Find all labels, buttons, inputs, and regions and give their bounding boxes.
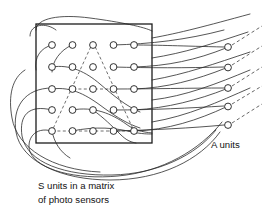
arc-top-left-2 bbox=[30, 25, 56, 36]
diagram-canvas: A units S units in a matrix of photo sen… bbox=[0, 0, 272, 220]
wire-12 bbox=[152, 70, 250, 100]
a-output-3 bbox=[232, 67, 262, 86]
s-to-a-connections bbox=[36, 14, 250, 158]
wire-23 bbox=[52, 131, 70, 158]
wire-5 bbox=[113, 67, 224, 68]
s-unit-r3c5[interactable] bbox=[131, 86, 138, 93]
a-output-2 bbox=[232, 46, 262, 65]
s-unit-r2c4[interactable] bbox=[110, 64, 117, 71]
left-sweep-arcs bbox=[11, 17, 222, 181]
s-unit-r4c2[interactable] bbox=[69, 107, 76, 114]
wire-7 bbox=[134, 68, 226, 89]
a-unit-4[interactable] bbox=[225, 103, 232, 110]
sweep-arc-4 bbox=[11, 70, 100, 172]
s-unit-r5c1[interactable] bbox=[49, 128, 56, 135]
s-unit-r2c2[interactable] bbox=[69, 64, 76, 71]
a-unit-nodes bbox=[225, 44, 232, 129]
s-unit-r1c5[interactable] bbox=[131, 42, 138, 49]
wire-8 bbox=[113, 88, 224, 89]
wire-14 bbox=[113, 125, 224, 131]
wire-3 bbox=[152, 14, 250, 38]
s-unit-r3c3[interactable] bbox=[90, 86, 97, 93]
a-unit-3[interactable] bbox=[225, 85, 232, 92]
figure-root: A units S units in a matrix of photo sen… bbox=[0, 0, 272, 220]
s-unit-r2c3[interactable] bbox=[90, 64, 97, 71]
wire-1 bbox=[134, 45, 224, 47]
a-units-label: A units bbox=[211, 139, 240, 150]
a-unit-1[interactable] bbox=[225, 44, 232, 51]
s-unit-r4c4[interactable] bbox=[110, 107, 117, 114]
s-unit-r5c5[interactable] bbox=[131, 128, 138, 135]
a-unit-2[interactable] bbox=[225, 64, 232, 71]
wire-13 bbox=[134, 107, 226, 131]
caption-line-1: S units in a matrix bbox=[38, 180, 114, 191]
s-unit-r4c3[interactable] bbox=[90, 107, 97, 114]
s-unit-r3c4[interactable] bbox=[110, 86, 117, 93]
a-output-5 bbox=[232, 104, 262, 123]
s-unit-r5c4[interactable] bbox=[110, 128, 117, 135]
caption-line-2: of photo sensors bbox=[38, 194, 109, 205]
s-unit-r1c4[interactable] bbox=[110, 42, 117, 49]
s-unit-r5c2[interactable] bbox=[69, 128, 76, 135]
wire-2 bbox=[113, 30, 224, 45]
sweep-arc-1 bbox=[15, 88, 220, 180]
s-unit-r3c1[interactable] bbox=[49, 86, 56, 93]
a-output-4 bbox=[232, 86, 262, 104]
s-unit-r1c2[interactable] bbox=[69, 42, 76, 49]
s-unit-r3c2[interactable] bbox=[69, 86, 76, 93]
wire-15 bbox=[152, 88, 250, 122]
s-unit-r2c5[interactable] bbox=[131, 64, 138, 71]
a-unit-outputs bbox=[232, 26, 262, 123]
a-unit-5[interactable] bbox=[225, 122, 232, 129]
s-unit-r5c3[interactable] bbox=[90, 128, 97, 135]
s-unit-r4c5[interactable] bbox=[131, 107, 138, 114]
s-unit-r1c1[interactable] bbox=[49, 42, 56, 49]
s-unit-r1c3[interactable] bbox=[90, 42, 97, 49]
sweep-arc-2 bbox=[21, 108, 216, 175]
s-unit-r2c1[interactable] bbox=[49, 64, 56, 71]
s-unit-r4c1[interactable] bbox=[49, 107, 56, 114]
